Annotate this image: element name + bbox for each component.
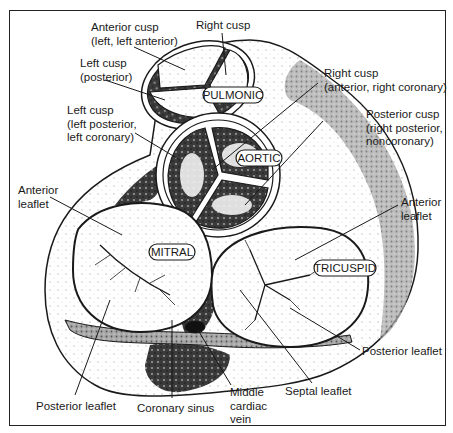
- label-septal-leaflet: Septal leaflet: [285, 385, 352, 399]
- tag-tricuspid: TRICUSPID: [314, 260, 376, 276]
- tag-mitral: MITRAL: [149, 244, 195, 260]
- label-tricuspid-posterior-leaflet: Posterior leaflet: [362, 345, 442, 359]
- mitral-valve: [75, 205, 210, 330]
- heart-valves-diagram: PULMONIC AORTIC MITRAL TRICUSPID: [0, 0, 453, 433]
- svg-text:MITRAL: MITRAL: [151, 246, 194, 258]
- label-tricuspid-anterior-leaflet: Anterior leaflet: [401, 196, 441, 223]
- tricuspid-valve: [214, 229, 367, 345]
- tag-aortic: AORTIC: [236, 150, 282, 166]
- label-mitral-posterior-leaflet: Posterior leaflet: [36, 400, 116, 414]
- label-coronary-sinus: Coronary sinus: [137, 402, 214, 416]
- svg-text:PULMONIC: PULMONIC: [203, 89, 264, 101]
- label-aortic-right-cusp: Right cusp (anterior, right coronary): [324, 67, 447, 94]
- label-pulm-right-cusp: Right cusp: [196, 19, 250, 33]
- label-pulm-anterior-cusp: Anterior cusp (left, left anterior): [91, 21, 178, 48]
- svg-text:AORTIC: AORTIC: [237, 152, 280, 164]
- tag-pulmonic: PULMONIC: [203, 87, 264, 103]
- label-pulm-left-cusp: Left cusp (posterior): [80, 57, 132, 84]
- label-mitral-anterior-leaflet: Anterior leaflet: [18, 184, 58, 211]
- middle-cardiac-vein: [185, 321, 205, 333]
- label-middle-cardiac-vein: Middle cardiac vein: [230, 386, 267, 427]
- label-aortic-posterior-cusp: Posterior cusp (right posterior, noncoro…: [366, 108, 443, 149]
- svg-text:TRICUSPID: TRICUSPID: [314, 262, 376, 274]
- label-aortic-left-cusp: Left cusp (left posterior, left coronary…: [67, 104, 137, 145]
